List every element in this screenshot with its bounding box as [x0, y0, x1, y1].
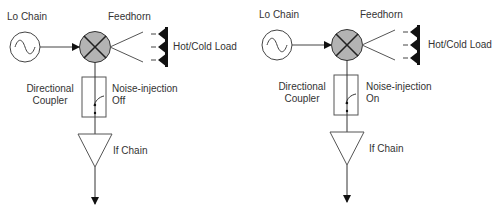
lo-chain-label: Lo Chain: [7, 11, 47, 23]
noise-injection-label: Noise-injection Off: [112, 83, 178, 107]
hot-cold-load-label: Hot/Cold Load: [428, 39, 492, 51]
if-chain-label: If Chain: [369, 143, 403, 155]
directional-coupler-label: Directional Coupler: [22, 83, 78, 107]
feedhorn-label: Feedhorn: [108, 11, 151, 23]
diagram-canvas: [0, 0, 495, 219]
panel-noise-on: [262, 25, 420, 202]
if-chain-label: If Chain: [113, 145, 147, 157]
hot-cold-load-label: Hot/Cold Load: [173, 41, 237, 53]
lo-chain-label: Lo Chain: [259, 9, 299, 21]
directional-coupler-label: Directional Coupler: [274, 81, 330, 105]
feedhorn-label: Feedhorn: [360, 9, 403, 21]
panel-noise-off: [10, 27, 168, 204]
noise-injection-label: Noise-injection On: [366, 81, 432, 105]
